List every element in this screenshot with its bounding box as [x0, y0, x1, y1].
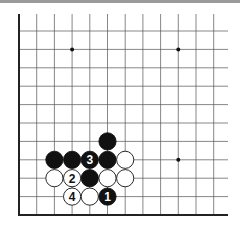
- black-stone[interactable]: [99, 133, 116, 150]
- black-stone[interactable]: [81, 170, 98, 187]
- star-point: [70, 47, 74, 51]
- star-point: [176, 158, 180, 162]
- white-stone[interactable]: [81, 188, 98, 205]
- move-number: 2: [69, 172, 76, 186]
- white-stone[interactable]: [117, 151, 134, 168]
- move-number: 1: [104, 190, 111, 204]
- white-stone[interactable]: 2: [64, 170, 81, 187]
- go-board[interactable]: 3241: [0, 0, 240, 232]
- white-stone[interactable]: [117, 170, 134, 187]
- star-point: [176, 47, 180, 51]
- black-stone[interactable]: [99, 151, 116, 168]
- black-stone[interactable]: 1: [99, 188, 116, 205]
- white-stone[interactable]: [99, 170, 116, 187]
- black-stone[interactable]: [46, 151, 63, 168]
- white-stone[interactable]: 4: [64, 188, 81, 205]
- move-number: 3: [86, 153, 93, 167]
- black-stone[interactable]: 3: [81, 151, 98, 168]
- white-stone[interactable]: [46, 170, 63, 187]
- black-stone[interactable]: [64, 151, 81, 168]
- move-number: 4: [69, 190, 76, 204]
